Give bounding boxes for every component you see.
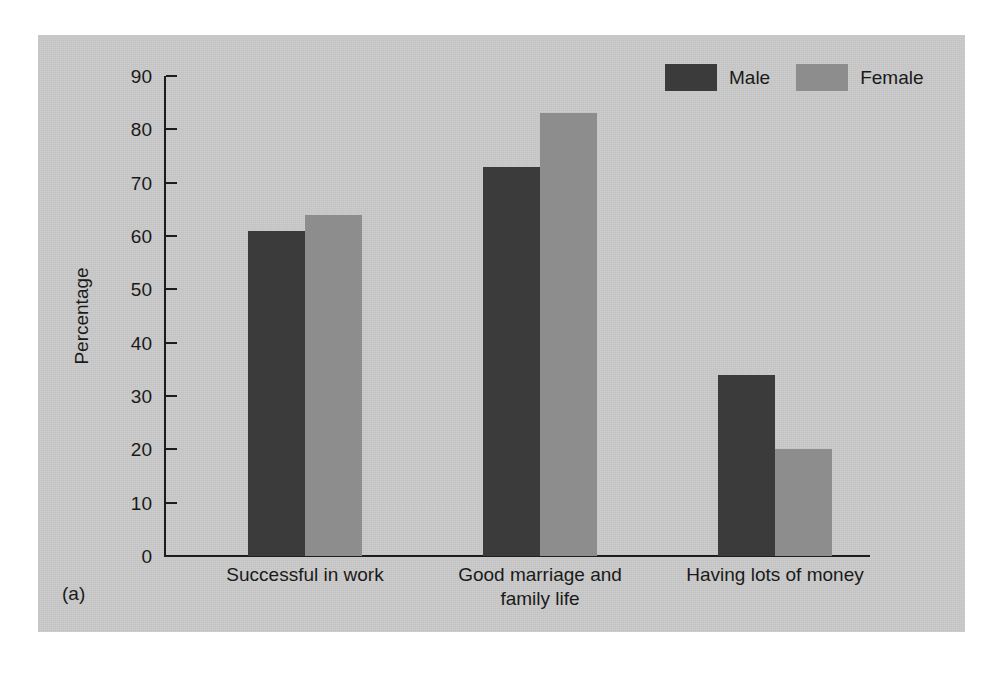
legend-label: Female — [860, 67, 923, 89]
bar-male-3 — [718, 375, 775, 556]
y-axis-tick-label: 70 — [100, 183, 152, 184]
bar-female-1 — [305, 215, 362, 556]
legend: MaleFemale — [665, 64, 924, 91]
legend-swatch-icon — [665, 64, 717, 91]
y-axis-line — [164, 76, 166, 557]
bar-female-3 — [775, 449, 832, 556]
y-axis-tick — [166, 182, 177, 184]
y-axis-tick-label: 40 — [100, 343, 152, 344]
figure-page: 0102030405060708090 Percentage Successfu… — [0, 0, 1002, 675]
y-axis-tick — [166, 395, 177, 397]
bar-male-2 — [483, 167, 540, 556]
x-axis-label-2: Good marriage andfamily life — [423, 563, 658, 611]
x-axis-label-line: Having lots of money — [658, 563, 893, 587]
y-axis-tick-label: 30 — [100, 396, 152, 397]
y-axis-tick — [166, 75, 177, 77]
y-axis-tick — [166, 342, 177, 344]
y-axis-tick-label: 0 — [100, 556, 152, 557]
legend-item-male: Male — [665, 64, 770, 91]
legend-item-female: Female — [796, 64, 923, 91]
y-axis-tick — [166, 288, 177, 290]
y-axis-tick — [166, 502, 177, 504]
bar-male-1 — [248, 231, 305, 556]
x-axis-label-1: Successful in work — [188, 563, 423, 587]
y-axis-tick-label: 20 — [100, 449, 152, 450]
legend-swatch-icon — [796, 64, 848, 91]
plot-area: 0102030405060708090 Percentage Successfu… — [0, 0, 1002, 675]
y-axis-tick — [166, 235, 177, 237]
x-axis-label-3: Having lots of money — [658, 563, 893, 587]
y-axis-tick-label: 10 — [100, 503, 152, 504]
y-axis-tick-label: 80 — [100, 129, 152, 130]
x-axis-label-line: Successful in work — [188, 563, 423, 587]
bar-female-2 — [540, 113, 597, 556]
y-axis-tick-label: 60 — [100, 236, 152, 237]
y-axis-tick-label: 50 — [100, 289, 152, 290]
figure-caption: (a) — [62, 583, 85, 605]
x-axis-label-line: Good marriage and — [423, 563, 658, 587]
y-axis-tick — [166, 128, 177, 130]
y-axis-tick — [166, 448, 177, 450]
legend-label: Male — [729, 67, 770, 89]
y-axis-tick-label: 90 — [100, 76, 152, 77]
x-axis-label-line: family life — [423, 587, 658, 611]
y-axis-title: Percentage — [71, 206, 93, 426]
